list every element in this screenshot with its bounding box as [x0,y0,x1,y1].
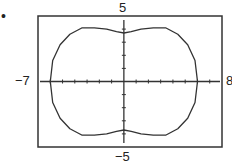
plot-area [0,0,232,162]
